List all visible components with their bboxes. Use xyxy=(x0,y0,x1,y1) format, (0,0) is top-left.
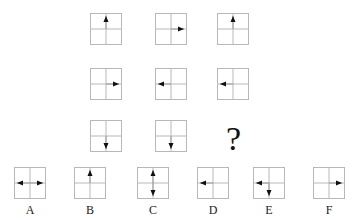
arrow-down-icon xyxy=(169,143,174,149)
grid-cell-r2c2 xyxy=(155,68,187,100)
option-b[interactable] xyxy=(74,167,106,199)
grid-cell-r1c2 xyxy=(155,13,187,45)
arrow-up-icon xyxy=(88,170,93,176)
grid-cell-r1c3 xyxy=(217,13,249,45)
arrow-right-icon xyxy=(178,27,184,32)
option-e-label: E xyxy=(253,203,285,218)
option-f[interactable] xyxy=(313,167,345,199)
arrow-right-icon xyxy=(113,82,119,87)
arrow-up-icon xyxy=(151,170,156,176)
option-b-label: B xyxy=(74,203,106,218)
grid-cell-r3c2 xyxy=(155,120,187,152)
missing-cell-question-mark: ? xyxy=(226,122,241,156)
option-c[interactable] xyxy=(137,167,169,199)
option-f-label: F xyxy=(313,203,345,218)
arrow-up-icon xyxy=(104,16,109,22)
arrow-down-icon xyxy=(151,190,156,196)
grid-cell-r1c1 xyxy=(90,13,122,45)
option-e[interactable] xyxy=(253,167,285,199)
grid-cell-r2c3 xyxy=(217,68,249,100)
option-d[interactable] xyxy=(197,167,229,199)
option-a-label: A xyxy=(14,203,46,218)
arrow-right-icon xyxy=(37,181,43,186)
arrow-left-icon xyxy=(256,181,262,186)
option-a[interactable] xyxy=(14,167,46,199)
arrow-down-icon xyxy=(104,143,109,149)
arrow-left-icon xyxy=(220,82,226,87)
arrow-down-icon xyxy=(267,190,272,196)
arrow-left-icon xyxy=(200,181,206,186)
option-d-label: D xyxy=(197,203,229,218)
option-c-label: C xyxy=(137,203,169,218)
grid-cell-r3c1 xyxy=(90,120,122,152)
grid-cell-r2c1 xyxy=(90,68,122,100)
arrow-left-icon xyxy=(17,181,23,186)
arrow-left-icon xyxy=(158,82,164,87)
arrow-up-icon xyxy=(231,16,236,22)
arrow-right-icon xyxy=(336,181,342,186)
